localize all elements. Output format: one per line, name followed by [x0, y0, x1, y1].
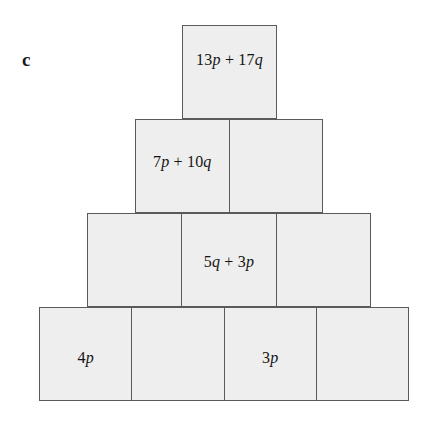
brick-row1-cell1[interactable]: 13p + 17q	[182, 25, 277, 119]
brick-row3-cell1[interactable]	[87, 213, 182, 307]
brick-row3-cell2[interactable]: 5q + 3p	[181, 213, 276, 307]
brick-row4-cell4[interactable]	[316, 307, 409, 401]
brick-row2-cell1-label: 7p + 10q	[153, 153, 212, 171]
brick-row3-cell2-label: 5q + 3p	[204, 253, 254, 271]
brick-row2-cell2[interactable]	[229, 119, 324, 213]
brick-row3-cell3[interactable]	[276, 213, 371, 307]
brick-row4-cell3[interactable]: 3p	[224, 307, 317, 401]
brick-row4-cell2[interactable]	[131, 307, 224, 401]
brick-row4-cell1[interactable]: 4p	[39, 307, 132, 401]
brick-row4-cell1-label: 4p	[77, 349, 93, 367]
brick-row2-cell1[interactable]: 7p + 10q	[135, 119, 230, 213]
part-label-c: c	[22, 50, 30, 69]
pyramid-row-4: 4p 3p	[39, 307, 409, 401]
pyramid-row-3: 5q + 3p	[87, 213, 371, 307]
brick-row4-cell3-label: 3p	[262, 349, 278, 367]
algebra-pyramid-figure: c 13p + 17q 7p + 10q 5q + 3p	[0, 0, 431, 424]
brick-pyramid: 13p + 17q 7p + 10q 5q + 3p 4p	[39, 25, 409, 401]
pyramid-row-2: 7p + 10q	[135, 119, 323, 213]
pyramid-row-1: 13p + 17q	[182, 25, 277, 119]
brick-row1-cell1-label: 13p + 17q	[196, 51, 263, 69]
